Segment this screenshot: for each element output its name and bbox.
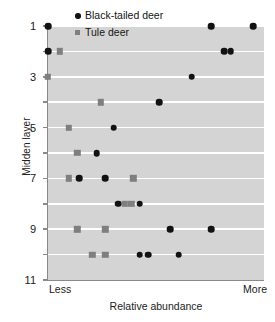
- data-point: [156, 99, 163, 106]
- y-axis-tick-label: 5: [30, 122, 36, 134]
- data-point: [250, 23, 257, 30]
- data-point: [65, 175, 71, 181]
- data-point: [98, 99, 104, 105]
- data-point: [74, 150, 80, 156]
- plot-area: 1357911: [48, 26, 264, 280]
- data-point: [188, 74, 195, 81]
- deer-abundance-scatter-chart: Midden layer 1357911 Black-tailed deer T…: [0, 0, 275, 322]
- y-axis-title: Midden layer: [21, 72, 32, 222]
- gridline: [48, 254, 264, 256]
- data-point: [137, 251, 144, 258]
- data-point: [167, 226, 174, 233]
- data-point: [128, 201, 134, 207]
- x-axis-right-endpoint-label: More: [243, 283, 267, 295]
- data-point: [130, 175, 136, 181]
- data-point: [145, 251, 152, 258]
- data-point: [93, 150, 100, 157]
- y-axis-tick-label: 7: [30, 172, 36, 184]
- data-point: [121, 201, 127, 207]
- y-axis-tick: [43, 228, 48, 230]
- gridline: [48, 203, 264, 205]
- y-axis-tick-label: 11: [25, 274, 36, 286]
- y-axis-tick: [43, 178, 48, 180]
- chart-legend: Black-tailed deer Tule deer: [73, 9, 163, 42]
- x-axis-left-endpoint-label: Less: [49, 283, 71, 295]
- legend-item-black-tailed-deer: Black-tailed deer: [73, 9, 163, 22]
- y-axis-tick: [43, 127, 48, 129]
- data-point: [74, 226, 80, 232]
- data-point: [175, 251, 182, 258]
- y-axis-tick: [43, 254, 48, 256]
- data-point: [45, 23, 52, 30]
- y-axis-tick: [43, 152, 48, 154]
- y-axis-tick-label: 3: [30, 71, 36, 83]
- data-point: [102, 175, 109, 182]
- gridline: [48, 152, 264, 154]
- data-point: [76, 175, 83, 182]
- data-point: [111, 124, 118, 131]
- gridline: [48, 127, 264, 129]
- x-axis-title: Relative abundance: [48, 300, 264, 312]
- data-point: [102, 226, 108, 232]
- data-point: [137, 201, 144, 208]
- y-axis-tick-label: 1: [30, 20, 36, 32]
- y-axis-tick-label: 9: [30, 223, 36, 235]
- data-point: [45, 74, 51, 80]
- data-point: [65, 124, 71, 130]
- data-point: [57, 48, 63, 54]
- data-point: [45, 48, 52, 55]
- data-point: [227, 48, 234, 55]
- data-point: [89, 251, 95, 257]
- gridline: [48, 228, 264, 230]
- gridline: [48, 76, 264, 78]
- y-axis-tick: [43, 279, 48, 281]
- data-point: [208, 23, 215, 30]
- legend-item-tule-deer: Tule deer: [73, 26, 163, 39]
- data-point: [102, 251, 108, 257]
- legend-circle-marker-icon: [73, 9, 85, 22]
- data-point: [208, 226, 215, 233]
- y-axis-tick: [43, 203, 48, 205]
- legend-label-black-tailed-deer: Black-tailed deer: [85, 9, 163, 22]
- legend-label-tule-deer: Tule deer: [85, 26, 129, 39]
- y-axis-tick: [43, 101, 48, 103]
- legend-square-marker-icon: [73, 26, 85, 39]
